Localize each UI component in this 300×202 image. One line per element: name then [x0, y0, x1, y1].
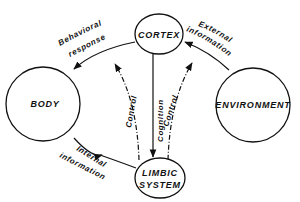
limbic-label-line1: LIMBIC [142, 168, 178, 178]
environment-label: ENVIRONMENT [215, 100, 291, 110]
cortex-limbic-diagram: Behavioral response External information… [0, 0, 300, 202]
edge-cognition: Cognition [153, 54, 165, 157]
edge-control-left: Control [115, 64, 139, 160]
node-environment: ENVIRONMENT [215, 68, 291, 142]
edge-internal-information: Internal information [58, 138, 136, 184]
body-label: BODY [30, 99, 59, 109]
node-cortex: CORTEX [135, 14, 183, 54]
edge-control-right: Control [161, 63, 192, 160]
limbic-label-line2: SYSTEM [139, 180, 181, 190]
cortex-label: CORTEX [138, 30, 180, 40]
control-left-label: Control [124, 94, 139, 128]
edge-external-information: External information [185, 19, 240, 70]
limbic-ellipse [135, 158, 185, 198]
node-limbic-system: LIMBIC SYSTEM [135, 158, 185, 198]
node-body: BODY [6, 67, 80, 141]
edge-behavioral-response: Behavioral response [57, 18, 135, 69]
